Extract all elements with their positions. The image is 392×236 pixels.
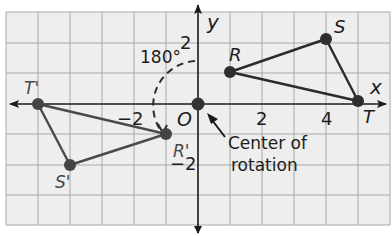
tick-x-4: 4	[321, 110, 332, 128]
label-t-prime: T'	[24, 80, 39, 97]
label-s-prime: S'	[55, 174, 70, 191]
point-r	[224, 66, 236, 78]
point-r-prime	[160, 128, 172, 140]
tick-x-2: 2	[256, 110, 267, 128]
y-axis-down-arrow-icon	[194, 226, 202, 234]
point-s-prime	[64, 159, 76, 171]
label-r: R	[229, 46, 242, 64]
origin-label: O	[177, 110, 192, 129]
angle-label: 180°	[140, 49, 181, 66]
point-t-prime	[32, 98, 44, 110]
center-label-line1: Center of	[228, 135, 307, 152]
center-label-line2: rotation	[231, 157, 298, 174]
label-s: S	[334, 18, 345, 36]
point-s	[320, 33, 332, 45]
point-origin	[192, 98, 205, 111]
tick-y-2: 2	[180, 34, 191, 52]
label-r-prime: R'	[173, 143, 190, 160]
coordinate-plane-figure: y x O 2 −2 −2 2 4 R S T R' S' T' 180° Ce…	[0, 0, 392, 236]
x-axis-label: x	[370, 77, 382, 97]
tick-x-neg2: −2	[117, 110, 144, 128]
y-axis-label: y	[207, 12, 219, 32]
label-t: T	[363, 108, 374, 126]
